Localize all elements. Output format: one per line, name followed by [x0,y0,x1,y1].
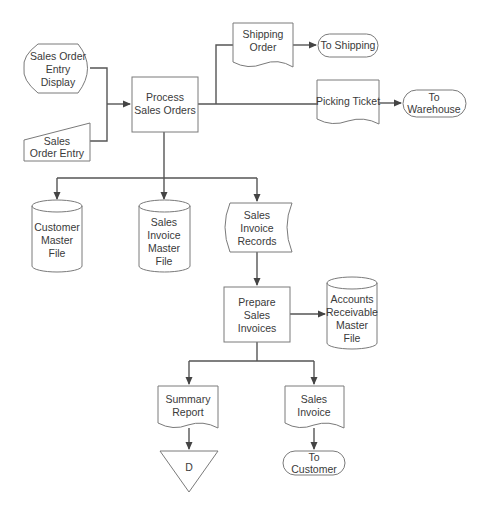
node-sales-order-entry-display: Sales Order Entry Display [24,44,88,93]
node-label: Customer [291,463,337,475]
node-label: Report [172,406,204,418]
node-label: Records [237,235,276,247]
node-label: Invoice [147,229,180,241]
node-label: D [185,461,193,473]
node-label: Picking Ticket [316,95,380,107]
node-prepare-sales-invoices: Prepare Sales Invoices [224,287,290,342]
node-label: Order [250,41,277,53]
node-label: Process [146,91,184,103]
node-label: Invoice [240,222,273,234]
node-label: Sales [44,135,70,147]
node-label: Entry [46,63,71,75]
node-shipping-order: Shipping Order [233,23,293,67]
node-label: Master [148,242,181,254]
node-label: Sales Orders [134,104,195,116]
node-to-shipping: To Shipping [318,34,378,57]
node-label: Shipping [243,28,284,40]
node-customer-master-file: Customer Master File [32,200,82,272]
node-label: Sales [244,309,270,321]
node-label: File [156,255,173,267]
node-label: Display [41,76,76,88]
node-label: Sales [151,216,177,228]
node-label: To Shipping [321,39,376,51]
node-label: Receivable [326,306,378,318]
node-label: Order Entry [30,147,85,159]
node-offline-storage-d: D [160,451,218,492]
node-label: Accounts [330,293,373,305]
node-label: File [344,332,361,344]
sales-order-flowchart: Sales Order Entry Display Sales Order En… [0,0,489,520]
node-label: Master [336,319,369,331]
node-picking-ticket: Picking Ticket [316,80,380,124]
node-accounts-receivable-master-file: Accounts Receivable Master File [326,277,378,349]
node-sales-invoice-master-file: Sales Invoice Master File [139,200,190,272]
node-label: Summary [166,393,212,405]
node-label: To [308,451,319,463]
node-label: Sales [244,209,270,221]
node-label: Warehouse [407,103,460,115]
node-sales-invoice: Sales Invoice [285,386,344,428]
node-summary-report: Summary Report [158,386,218,428]
node-to-warehouse: To Warehouse [403,90,466,117]
node-sales-invoice-records: Sales Invoice Records [225,203,292,252]
node-label: Invoices [238,322,277,334]
node-label: Master [41,234,74,246]
node-to-customer: To Customer [283,451,345,475]
node-label: Prepare [238,296,276,308]
edge-process-to-shipping-order [216,45,233,104]
node-label: Sales Order [30,50,87,62]
edge-display-to-process [90,68,107,141]
node-label: Sales [301,393,327,405]
node-label: Invoice [297,406,330,418]
node-label: To [428,91,439,103]
node-label: Customer [34,221,80,233]
node-sales-order-entry: Sales Order Entry [24,123,90,161]
node-label: File [49,247,66,259]
node-process-sales-orders: Process Sales Orders [132,77,198,132]
